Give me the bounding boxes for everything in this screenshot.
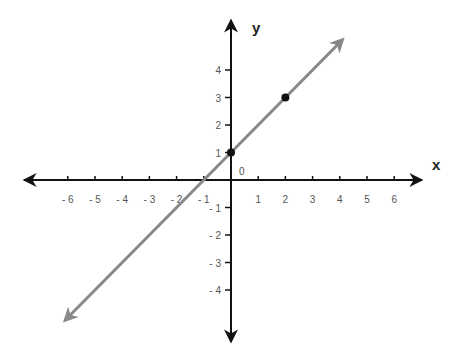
x-tick-label: - 5 xyxy=(89,194,101,205)
x-tick-label: - 6 xyxy=(62,194,74,205)
y-tick-label: 2 xyxy=(215,120,221,131)
x-tick-label: - 4 xyxy=(116,194,128,205)
x-tick-label: 3 xyxy=(310,194,316,205)
y-tick-label: 3 xyxy=(215,93,221,104)
y-tick-label: - 4 xyxy=(209,285,221,296)
x-tick-label: 1 xyxy=(255,194,261,205)
x-axis-label: x xyxy=(432,156,441,173)
x-tick-label: 6 xyxy=(391,194,397,205)
origin-label: 0 xyxy=(239,166,245,177)
x-tick-label: 4 xyxy=(337,194,343,205)
y-tick-label: - 1 xyxy=(209,203,221,214)
coordinate-plane: - 6- 5- 4- 3- 2- 1123456 x 4321- 1- 2- 3… xyxy=(0,0,460,361)
y-tick-label: 4 xyxy=(215,65,221,76)
data-point xyxy=(227,149,235,157)
x-tick-label: 2 xyxy=(283,194,289,205)
y-tick-label: - 2 xyxy=(209,230,221,241)
y-tick-label: - 3 xyxy=(209,258,221,269)
x-tick-label: 5 xyxy=(364,194,370,205)
y-tick-label: 1 xyxy=(215,148,221,159)
x-tick-label: - 3 xyxy=(144,194,156,205)
x-tick-label: - 1 xyxy=(198,194,210,205)
x-axis: - 6- 5- 4- 3- 2- 1123456 x xyxy=(24,156,441,205)
y-axis-label: y xyxy=(252,19,261,36)
data-point xyxy=(281,94,289,102)
